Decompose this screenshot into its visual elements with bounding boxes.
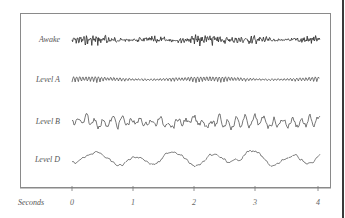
waveform-level-a [72,77,319,83]
waveform-level-d [72,150,320,167]
waveform-level-b [72,114,320,130]
waveform-plot [0,0,345,218]
tick-label-0: 0 [70,198,74,207]
tick-label-2: 2 [192,198,196,207]
waveform-awake [72,35,320,46]
eeg-chart: Awake Level A Level B Level D Seconds 0 … [0,0,345,218]
x-axis-title: Seconds [18,198,44,207]
tick-label-3: 3 [253,198,257,207]
tick-label-1: 1 [131,198,135,207]
tick-label-4: 4 [316,198,320,207]
